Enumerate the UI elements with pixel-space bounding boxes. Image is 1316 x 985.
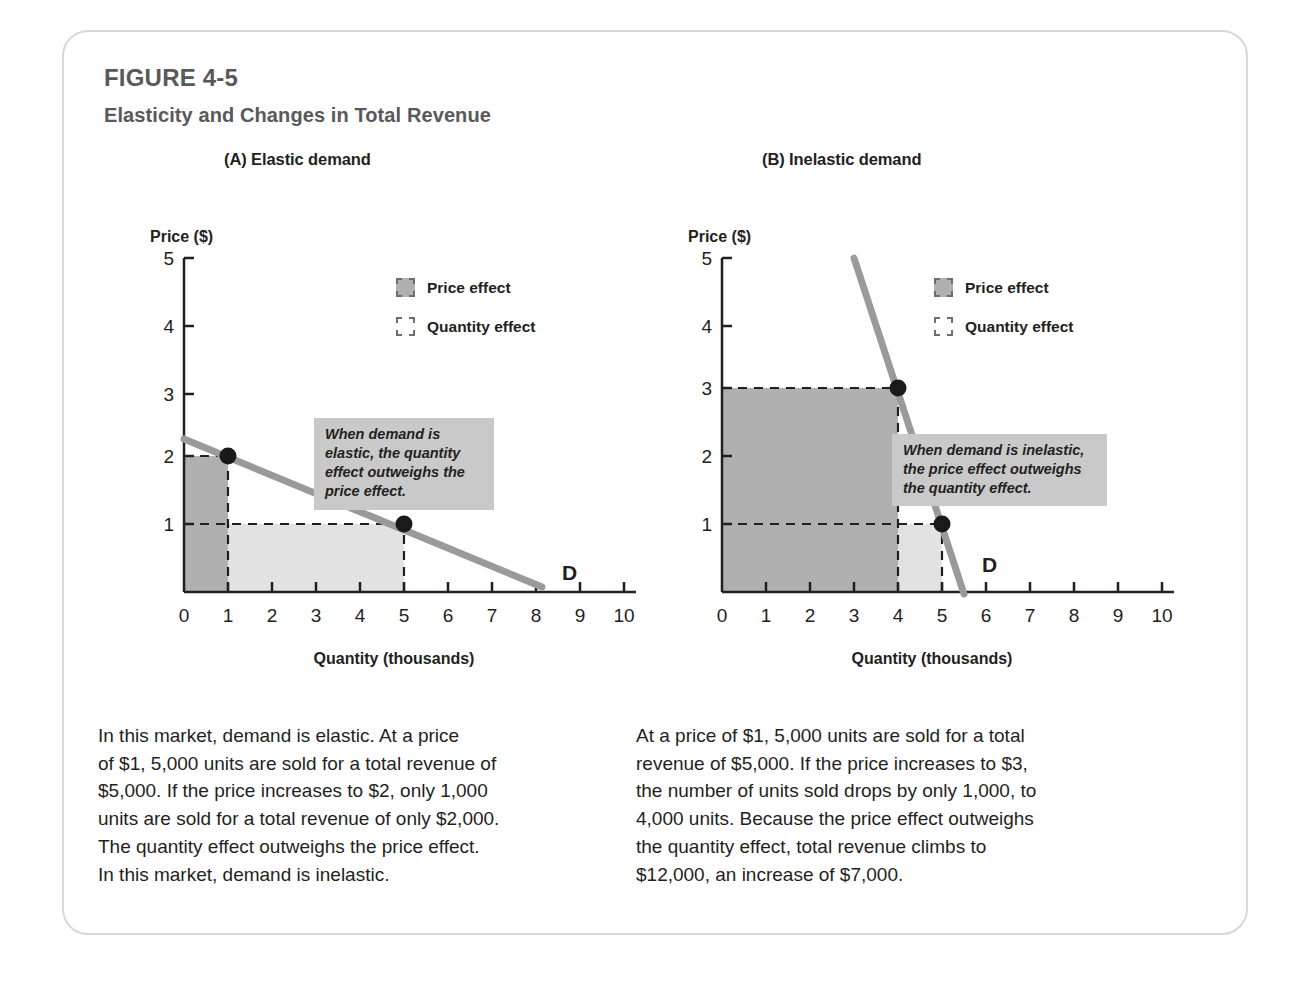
panel-a-note: When demand is elastic, the quantity eff… <box>314 418 494 510</box>
svg-text:8: 8 <box>1069 605 1080 626</box>
svg-text:5: 5 <box>937 605 948 626</box>
svg-text:0: 0 <box>717 605 728 626</box>
svg-text:4: 4 <box>701 316 712 337</box>
panel-b-title: (B) Inelastic demand <box>762 150 1082 169</box>
price-effect-label: Price effect <box>965 279 1049 297</box>
svg-text:1: 1 <box>761 605 772 626</box>
quantity-effect-swatch-icon <box>396 317 415 336</box>
panel-b-point-5-1 <box>934 516 951 533</box>
svg-text:3: 3 <box>311 605 322 626</box>
panel-b-demand-label: D <box>982 553 997 576</box>
price-effect-label: Price effect <box>427 279 511 297</box>
panel-b-x-axis-label: Quantity (thousands) <box>722 650 1142 668</box>
legend-item-price-effect: Price effect <box>396 278 536 297</box>
panel-b-quantity-effect-region <box>898 524 942 592</box>
quantity-effect-label: Quantity effect <box>427 318 536 336</box>
svg-text:8: 8 <box>531 605 542 626</box>
panel-a-y-tick-labels: 5 4 3 2 1 <box>163 250 174 535</box>
panel-b-caption: At a price of $1, 5,000 units are sold f… <box>636 722 1166 888</box>
svg-text:6: 6 <box>981 605 992 626</box>
legend-item-quantity-effect: Quantity effect <box>396 317 536 336</box>
svg-text:9: 9 <box>575 605 586 626</box>
price-effect-swatch-icon <box>934 278 953 297</box>
svg-text:7: 7 <box>487 605 498 626</box>
panel-b-price-effect-region <box>722 388 898 592</box>
panel-a-x-tick-labels: 0 1 2 3 4 5 6 7 8 9 10 <box>179 605 635 626</box>
panel-a-point-1-2 <box>220 448 237 465</box>
panel-a-caption: In this market, demand is elastic. At a … <box>98 722 608 888</box>
panel-a-title: (A) Elastic demand <box>224 150 524 169</box>
quantity-effect-swatch-icon <box>934 317 953 336</box>
price-effect-swatch-icon <box>396 278 415 297</box>
svg-text:4: 4 <box>355 605 366 626</box>
legend-item-quantity-effect: Quantity effect <box>934 317 1074 336</box>
panel-a-point-5-1 <box>396 516 413 533</box>
figure-card: FIGURE 4-5 Elasticity and Changes in Tot… <box>62 30 1248 935</box>
svg-text:5: 5 <box>163 250 174 269</box>
panel-a-y-axis-label: Price ($) <box>150 228 213 246</box>
svg-text:5: 5 <box>399 605 410 626</box>
figure-number: FIGURE 4-5 <box>104 64 238 92</box>
svg-text:2: 2 <box>267 605 278 626</box>
svg-text:1: 1 <box>223 605 234 626</box>
svg-text:10: 10 <box>1151 605 1172 626</box>
svg-text:3: 3 <box>701 378 712 399</box>
panel-a-x-axis-label: Quantity (thousands) <box>184 650 604 668</box>
panel-inelastic-demand: (B) Inelastic demand Price ($) <box>634 150 1194 770</box>
panel-b-legend: Price effect Quantity effect <box>934 278 1074 356</box>
svg-text:2: 2 <box>701 446 712 467</box>
legend-item-price-effect: Price effect <box>934 278 1074 297</box>
svg-text:1: 1 <box>163 514 174 535</box>
svg-text:1: 1 <box>701 514 712 535</box>
panel-b-point-4-3 <box>890 380 907 397</box>
svg-text:3: 3 <box>163 384 174 405</box>
panel-elastic-demand: (A) Elastic demand Price ($) <box>96 150 656 770</box>
panel-a-legend: Price effect Quantity effect <box>396 278 536 356</box>
quantity-effect-label: Quantity effect <box>965 318 1074 336</box>
panel-b-x-tick-labels: 0 1 2 3 4 5 6 7 8 9 10 <box>717 605 1173 626</box>
svg-text:4: 4 <box>163 316 174 337</box>
svg-text:2: 2 <box>163 446 174 467</box>
svg-text:4: 4 <box>893 605 904 626</box>
svg-text:2: 2 <box>805 605 816 626</box>
svg-text:9: 9 <box>1113 605 1124 626</box>
svg-text:6: 6 <box>443 605 454 626</box>
panel-b-y-tick-labels: 5 4 3 2 1 <box>701 250 712 535</box>
figure-title: Elasticity and Changes in Total Revenue <box>104 104 491 127</box>
svg-text:3: 3 <box>849 605 860 626</box>
panel-b-y-axis-label: Price ($) <box>688 228 751 246</box>
svg-text:7: 7 <box>1025 605 1036 626</box>
svg-text:5: 5 <box>701 250 712 269</box>
svg-text:10: 10 <box>613 605 634 626</box>
panel-a-demand-label: D <box>562 561 577 584</box>
panel-b-note: When demand is inelastic, the price effe… <box>892 434 1107 506</box>
svg-text:0: 0 <box>179 605 190 626</box>
